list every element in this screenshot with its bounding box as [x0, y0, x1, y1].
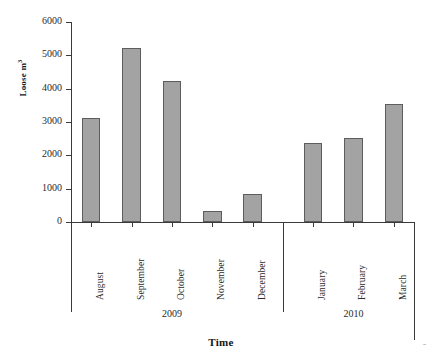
x-axis-category-label-november: November — [216, 259, 226, 300]
year-group-label-2009: 2009 — [147, 308, 197, 319]
x-axis-category-label-september: September — [136, 258, 146, 300]
year-group-label-2010: 2010 — [328, 308, 378, 319]
bar-chart-figure: Loose m3 0100020003000400050006000 Time … — [0, 0, 442, 361]
bar-december — [243, 194, 262, 222]
y-axis-tick: 1000 — [66, 189, 72, 190]
y-axis-tick-label: 0 — [22, 215, 62, 226]
y-axis-tick-label: 6000 — [22, 15, 62, 26]
y-axis-tick: 4000 — [66, 89, 72, 90]
x-axis-tick — [172, 222, 173, 227]
y-axis-title-exponent: 3 — [16, 59, 23, 62]
bar-november — [203, 211, 222, 222]
y-axis-tick: 3000 — [66, 122, 72, 123]
bar-august — [82, 118, 101, 222]
x-axis-category-label-december: December — [257, 260, 267, 300]
y-axis-tick: 2000 — [66, 155, 72, 156]
x-axis-category-label-august: August — [95, 272, 105, 300]
x-axis-tick — [132, 222, 133, 227]
x-axis-tick — [91, 222, 92, 227]
plot-right-frame — [414, 222, 415, 340]
y-axis-tick: 6000 — [66, 22, 72, 23]
y-axis-tick: 5000 — [66, 55, 72, 56]
y-axis-tick-label: 2000 — [22, 148, 62, 159]
plot-area: 0100020003000400050006000 — [71, 22, 414, 222]
x-axis-title: Time — [0, 336, 442, 348]
x-axis-category-label-march: March — [398, 275, 408, 300]
y-axis-tick-label: 5000 — [22, 48, 62, 59]
bar-september — [122, 48, 141, 222]
y-axis-tick-label: 1000 — [22, 182, 62, 193]
y-axis-tick-label: 3000 — [22, 115, 62, 126]
corner-mark: ˉ — [423, 341, 426, 351]
x-axis-category-label-october: October — [176, 269, 186, 300]
x-axis-tick — [313, 222, 314, 227]
x-axis-tick — [353, 222, 354, 227]
x-axis-category-label-january: January — [317, 270, 327, 300]
x-axis-line — [71, 222, 414, 223]
y-axis-tick-label: 4000 — [22, 82, 62, 93]
x-axis-category-label-february: February — [357, 265, 367, 300]
bar-march — [385, 104, 404, 222]
x-axis-tick — [253, 222, 254, 227]
year-group-separator — [283, 222, 284, 312]
bar-october — [163, 81, 182, 222]
bar-january — [304, 143, 323, 222]
x-axis-tick — [394, 222, 395, 227]
bar-february — [344, 138, 363, 222]
x-axis-tick — [212, 222, 213, 227]
category-band-left-edge — [71, 222, 72, 312]
